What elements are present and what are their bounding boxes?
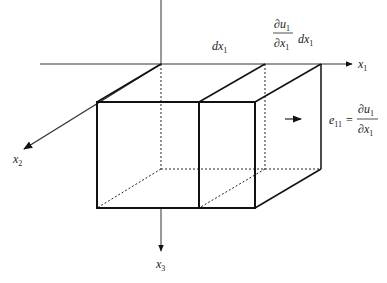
svg-text:=: = — [346, 113, 353, 127]
svg-text:∂x1: ∂x1 — [274, 36, 289, 52]
strain-equation: e11 = ∂u1 ∂x1 — [329, 102, 378, 138]
svg-text:∂x1: ∂x1 — [358, 122, 373, 138]
x2-label: x2 — [12, 152, 22, 168]
back-face-hidden-edges — [97, 64, 321, 208]
strain-diagram: x1 x2 x3 dx1 ∂u1 ∂x1 dx1 e11 = ∂u1 ∂x1 — [0, 0, 387, 283]
x3-label: x3 — [155, 257, 165, 273]
svg-text:∂u1: ∂u1 — [274, 17, 290, 33]
element-visible-edges — [97, 64, 321, 208]
x1-label: x1 — [357, 57, 367, 73]
dx1-label: dx1 — [212, 39, 227, 55]
svg-text:e11: e11 — [329, 113, 342, 129]
svg-text:dx1: dx1 — [298, 32, 313, 48]
svg-text:∂u1: ∂u1 — [358, 102, 374, 118]
deformation-label: ∂u1 ∂x1 dx1 — [273, 17, 313, 52]
